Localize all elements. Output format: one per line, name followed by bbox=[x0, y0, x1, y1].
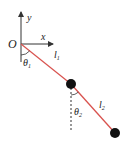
theta2-label: θ2 bbox=[74, 106, 82, 118]
origin-label: O bbox=[8, 37, 17, 51]
theta2-arc bbox=[71, 92, 78, 95]
l2-label: l2 bbox=[99, 99, 105, 111]
x-axis-label: x bbox=[40, 31, 46, 42]
l1-label: l1 bbox=[54, 49, 60, 61]
mass-1 bbox=[66, 79, 76, 89]
y-axis-label: y bbox=[26, 12, 32, 23]
double-pendulum-diagram: O y x θ1 l1 θ2 l2 bbox=[0, 0, 128, 149]
theta1-arc bbox=[21, 51, 30, 55]
mass-2 bbox=[110, 128, 120, 138]
theta1-label: θ1 bbox=[23, 57, 31, 69]
